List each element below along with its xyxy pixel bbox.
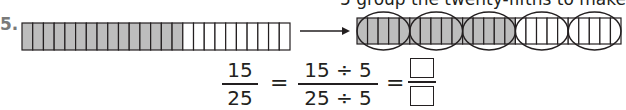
equals-sign: = — [270, 70, 288, 95]
fraction-division: 15 ÷ 5 25 ÷ 5 — [298, 58, 378, 110]
equals-sign-2: = — [386, 70, 404, 95]
fraction-15-25: 15 25 — [222, 58, 258, 110]
arrow-icon — [300, 27, 350, 35]
answer-fraction — [408, 58, 436, 106]
answer-denominator-box[interactable] — [410, 86, 434, 106]
answer-numerator-box[interactable] — [410, 58, 434, 78]
fraction-bars-diagram — [0, 0, 623, 60]
grouped-fraction-bar — [357, 12, 621, 50]
left-fraction-bar — [22, 23, 290, 50]
